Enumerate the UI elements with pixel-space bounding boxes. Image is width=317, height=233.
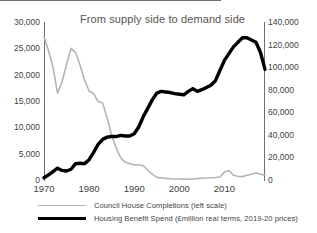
tick-label: 20,000 (268, 152, 294, 162)
tick-label: 1980 (79, 183, 100, 194)
legend-swatch-grey-line-icon (38, 205, 86, 206)
tick-label: 120,000 (268, 40, 299, 50)
tick-label: 1970 (33, 183, 54, 194)
tick-label: 80,000 (268, 85, 294, 95)
legend-label: Housing Benefit Spend (£million real ter… (94, 214, 298, 223)
tick-label: 2010 (214, 183, 235, 194)
tick-label: 15,000 (14, 96, 40, 106)
tick-label: 2000 (169, 183, 190, 194)
tick-label: 140,000 (268, 17, 299, 27)
tick-label: 100,000 (268, 62, 299, 72)
tick-label: 20,000 (14, 70, 40, 80)
series-line (44, 37, 265, 179)
chart-container: From supply side to demand side 05,00010… (0, 0, 317, 233)
tick-label: 60,000 (268, 107, 294, 117)
legend-label: Council House Completions (left scale) (94, 201, 227, 210)
tick-label: 10,000 (14, 122, 40, 132)
legend-swatch-black-line-icon (38, 217, 86, 220)
legend-item[interactable]: Housing Benefit Spend (£million real ter… (38, 212, 298, 224)
tick-label: 30,000 (14, 17, 40, 27)
chart-legend: Council House Completions (left scale)Ho… (0, 199, 317, 233)
tick-label: 40,000 (268, 130, 294, 140)
x-axis-tick-labels: 19701980199020002010 (0, 183, 317, 199)
series-plot (44, 22, 265, 181)
legend-item[interactable]: Council House Completions (left scale) (38, 199, 227, 211)
tick-label: 5,000 (19, 149, 40, 159)
tick-label: 25,000 (14, 43, 40, 53)
tick-label: 1990 (124, 183, 145, 194)
